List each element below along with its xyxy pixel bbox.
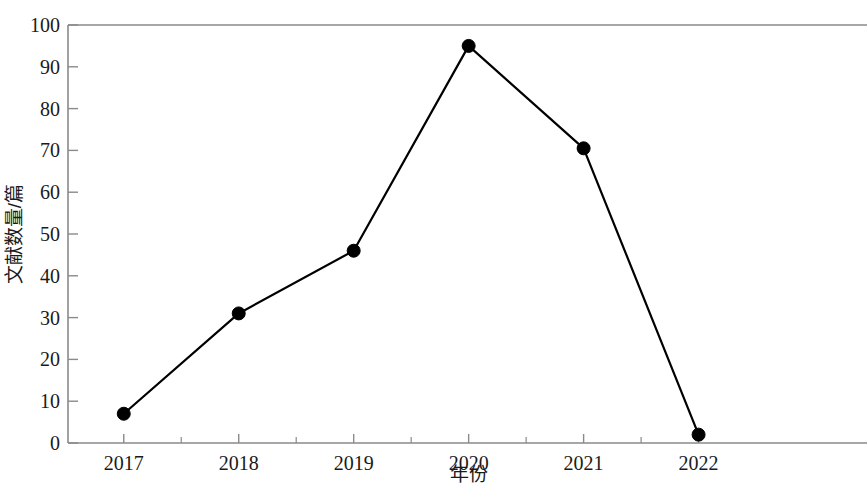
data-point-2017 [117,407,130,420]
x-tick-label-2019: 2019 [334,452,374,474]
chart-figure: 0 10 20 30 40 50 60 70 80 90 100 [0,0,867,484]
data-point-2018 [232,307,245,320]
y-tick-label-10: 10 [40,390,60,412]
x-tick-label-2022: 2022 [679,452,719,474]
y-axis-tick-labels: 0 10 20 30 40 50 60 70 80 90 100 [30,14,60,454]
data-point-2021 [577,142,590,155]
y-tick-label-100: 100 [30,14,60,36]
x-tick-label-2021: 2021 [564,452,604,474]
x-axis-title: 年份 [450,464,488,484]
y-tick-label-60: 60 [40,181,60,203]
x-tick-label-2018: 2018 [219,452,259,474]
data-point-2019 [347,244,360,257]
x-axis-tick-labels: 2017 2018 2019 2020 2021 2022 [104,452,719,474]
y-tick-label-90: 90 [40,56,60,78]
y-axis-title: 文献数量/篇 [4,184,25,284]
y-tick-label-70: 70 [40,139,60,161]
data-point-2020 [462,39,475,52]
y-tick-label-0: 0 [50,432,60,454]
y-tick-label-20: 20 [40,348,60,370]
y-tick-label-30: 30 [40,307,60,329]
data-point-2022 [692,428,705,441]
x-tick-label-2017: 2017 [104,452,144,474]
y-tick-label-50: 50 [40,223,60,245]
y-tick-label-80: 80 [40,98,60,120]
line-chart: 0 10 20 30 40 50 60 70 80 90 100 [0,0,867,484]
plot-area-background [68,25,867,443]
y-tick-label-40: 40 [40,265,60,287]
